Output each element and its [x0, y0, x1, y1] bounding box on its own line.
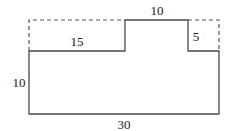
label-top-step-width: 10	[151, 3, 164, 18]
label-bottom-width: 30	[118, 117, 131, 131]
label-left-notch-width: 15	[71, 34, 84, 49]
composite-shape-diagram: 10 15 5 10 30	[0, 0, 228, 131]
shape-outline	[29, 20, 219, 114]
label-right-notch-height: 5	[193, 29, 200, 44]
label-left-height: 10	[13, 75, 26, 90]
